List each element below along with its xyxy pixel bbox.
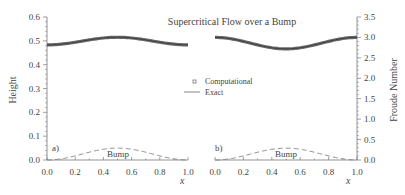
x-tick-label: 0.4 [98, 167, 110, 177]
y-tick-label: 0.6 [29, 12, 41, 22]
left-y-axis-label: Height [7, 76, 18, 103]
y-tick-label: 0.5 [29, 36, 41, 46]
x-tick-label: 0.6 [126, 167, 138, 177]
y-tick-label: 2.0 [364, 73, 376, 83]
y-tick-label: 3.5 [364, 12, 376, 22]
bump-label-b: Bump [275, 149, 298, 159]
x-tick-label: 0.0 [209, 167, 221, 177]
panel-label-b: b) [215, 143, 223, 153]
y-tick-label: 0.0 [29, 155, 41, 165]
y-tick-label: 0.0 [364, 155, 376, 165]
x-tick-label: 0.4 [266, 167, 278, 177]
chart-svg: 0.00.20.40.60.81.00.00.10.20.30.40.50.60… [0, 0, 405, 195]
x-tick-label: 1.0 [351, 167, 363, 177]
chart-title: Supercritical Flow over a Bump [168, 16, 296, 27]
y-tick-label: 0.4 [29, 60, 41, 70]
y-tick-label: 0.2 [29, 107, 40, 117]
computational-series [215, 37, 357, 48]
x-tick-label: 0.0 [41, 167, 53, 177]
y-tick-label: 0.1 [29, 131, 40, 141]
x-axis-label-a: x [179, 175, 185, 186]
panel-label-a: a) [52, 143, 59, 153]
x-tick-label: 0.2 [70, 167, 81, 177]
y-tick-label: 1.0 [364, 114, 376, 124]
x-tick-label: 0.2 [238, 167, 249, 177]
data-series [47, 37, 357, 160]
x-tick-label: 0.6 [295, 167, 307, 177]
y-tick-label: 2.5 [364, 53, 376, 63]
axes: 0.00.20.40.60.81.00.00.10.20.30.40.50.60… [29, 12, 376, 177]
computational-series [47, 37, 188, 45]
y-tick-label: 3.0 [364, 32, 376, 42]
y-tick-label: 1.5 [364, 94, 376, 104]
right-y-axis-label: Froude Number [388, 58, 399, 122]
x-axis-label-b: x [345, 175, 351, 186]
legend: Computational Exact [184, 77, 253, 97]
legend-marker-icon [193, 80, 196, 83]
legend-computational: Computational [205, 77, 253, 86]
x-tick-label: 0.8 [154, 167, 166, 177]
chart-figure: 0.00.20.40.60.81.00.00.10.20.30.40.50.60… [0, 0, 405, 195]
bump-label-a: Bump [107, 149, 130, 159]
legend-exact: Exact [205, 88, 224, 97]
y-tick-label: 0.3 [29, 84, 41, 94]
x-tick-label: 0.8 [323, 167, 335, 177]
y-tick-label: 0.5 [364, 135, 376, 145]
